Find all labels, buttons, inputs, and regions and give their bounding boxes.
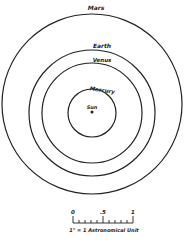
venus-label: Venus (93, 57, 112, 63)
scale-tick-half: .5 (100, 209, 106, 215)
scale-bar (73, 216, 133, 223)
earth-label: Earth (93, 42, 111, 49)
scale-tick-1: 1 (131, 209, 135, 215)
solar-system-diagram: Mars Earth Venus Mercury Sun 0 .5 1 1" =… (0, 0, 184, 243)
scale-caption: 1" = 1 Astronomical Unit (69, 227, 139, 233)
mars-label: Mars (88, 4, 105, 11)
scale-tick-0: 0 (71, 209, 75, 215)
sun-label: Sun (87, 104, 98, 110)
mercury-label: Mercury (89, 85, 116, 96)
sun-dot (91, 111, 94, 114)
